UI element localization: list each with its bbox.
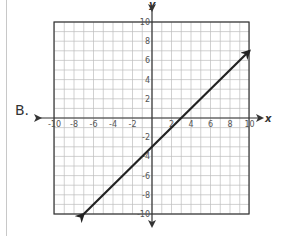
- graphed-line: [84, 51, 250, 214]
- svg-text:-6: -6: [142, 172, 150, 181]
- svg-text:-8: -8: [142, 191, 150, 200]
- svg-text:-8: -8: [70, 120, 78, 129]
- svg-text:10: 10: [140, 18, 150, 27]
- svg-text:-6: -6: [90, 120, 98, 129]
- svg-text:10: 10: [244, 120, 254, 129]
- svg-text:6: 6: [208, 120, 213, 129]
- svg-text:-10: -10: [48, 120, 61, 129]
- svg-text:4: 4: [188, 120, 193, 129]
- svg-text:8: 8: [227, 120, 232, 129]
- svg-text:8: 8: [145, 37, 150, 46]
- svg-text:2: 2: [145, 95, 150, 104]
- svg-text:-4: -4: [109, 120, 117, 129]
- svg-text:-2: -2: [142, 133, 150, 142]
- svg-text:-10: -10: [137, 210, 150, 219]
- x-axis-label: x: [264, 113, 272, 124]
- svg-text:-2: -2: [129, 120, 137, 129]
- svg-text:4: 4: [145, 76, 150, 85]
- y-axis-label: y: [149, 0, 156, 10]
- svg-text:6: 6: [145, 56, 150, 65]
- coordinate-graph: -10-8-6-4-2246810108642-2-4-6-8-10 x y: [0, 0, 285, 236]
